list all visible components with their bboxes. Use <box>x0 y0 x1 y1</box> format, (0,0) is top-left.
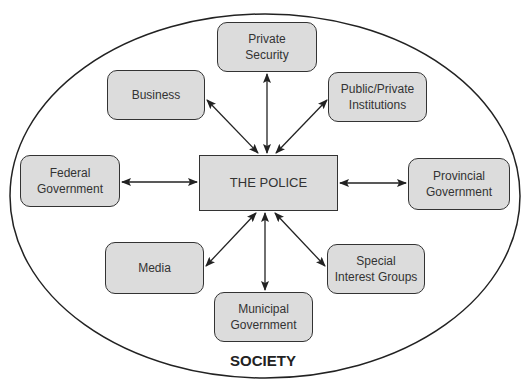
node-label: THE POLICE <box>230 175 307 191</box>
node-label: Provincial Government <box>426 168 492 200</box>
node-municipal-government: Municipal Government <box>214 292 313 342</box>
node-business: Business <box>107 70 205 120</box>
edge-business <box>207 100 258 153</box>
society-label: SOCIETY <box>0 352 526 369</box>
node-label: Public/Private Institutions <box>341 81 414 113</box>
node-label: Media <box>138 260 171 276</box>
node-label: Federal Government <box>37 165 103 197</box>
node-provincial-government: Provincial Government <box>408 158 510 210</box>
node-public-private-institutions: Public/Private Institutions <box>328 72 427 122</box>
node-federal-government: Federal Government <box>20 155 120 207</box>
node-special-interest-groups: Special Interest Groups <box>327 244 425 294</box>
node-label: Business <box>132 87 181 103</box>
edge-special-interest-groups <box>275 213 325 266</box>
node-label: Municipal Government <box>230 301 296 333</box>
node-label: Special Interest Groups <box>335 253 418 285</box>
node-the-police: THE POLICE <box>199 155 338 211</box>
edge-public-private-institutions <box>276 100 327 153</box>
node-private-security: Private Security <box>217 22 317 72</box>
edge-media <box>206 213 256 266</box>
node-media: Media <box>105 242 204 294</box>
node-label: Private Security <box>245 31 288 63</box>
